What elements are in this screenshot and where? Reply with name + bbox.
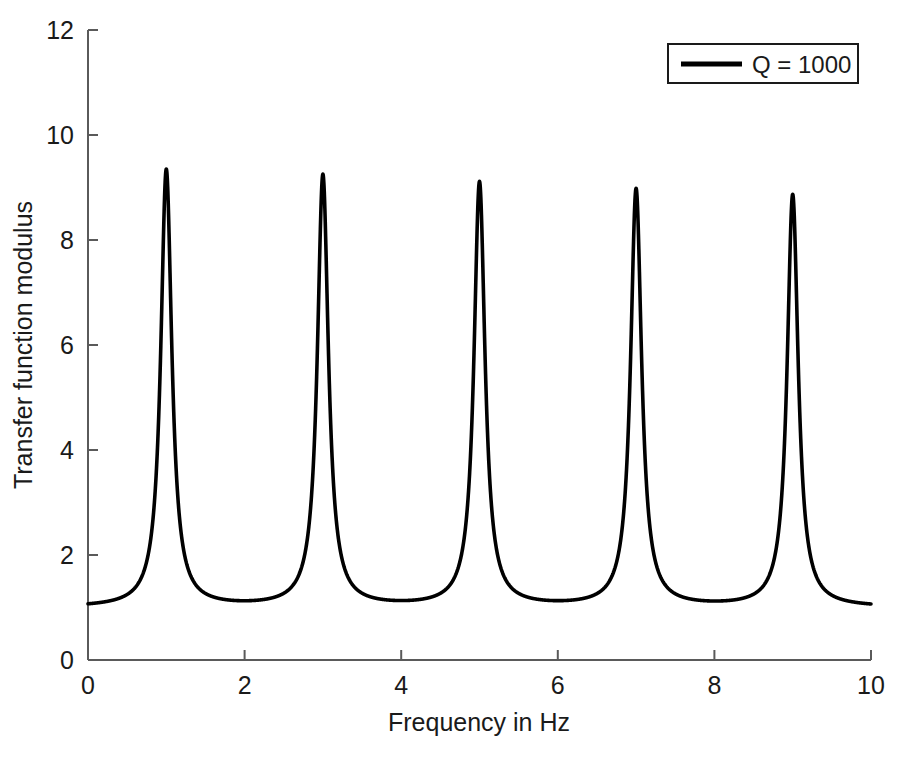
legend: Q = 1000 [668,44,858,83]
x-tick-label: 4 [394,671,408,699]
x-tick-label: 8 [707,671,721,699]
x-tick-label: 2 [238,671,252,699]
transfer-function-chart: 024681012 0246810 Frequency in Hz Transf… [0,0,900,759]
x-tick-label: 0 [81,671,95,699]
y-tick-label: 12 [46,16,74,44]
y-axis-label: Transfer function modulus [9,201,37,489]
x-tick-label: 6 [551,671,565,699]
y-tick-label: 10 [46,121,74,149]
x-axis-label: Frequency in Hz [388,708,570,736]
y-tick-label: 8 [60,226,74,254]
y-tick-label: 4 [60,436,74,464]
y-tick-label: 2 [60,541,74,569]
y-tick-label: 0 [60,646,74,674]
y-tick-label: 6 [60,331,74,359]
legend-entry-label: Q = 1000 [752,51,851,78]
x-tick-label: 10 [857,671,885,699]
figure-background [0,0,900,759]
